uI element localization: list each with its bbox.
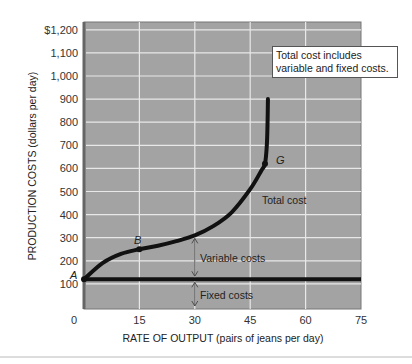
fixed-costs-label: Fixed costs bbox=[200, 289, 253, 301]
point-marker bbox=[81, 276, 87, 282]
y-tick-label: 600 bbox=[60, 162, 78, 174]
total-cost-label: Total cost bbox=[262, 194, 306, 206]
annotation-line-1: Total cost includes bbox=[276, 49, 394, 62]
x-tick-label: 0 bbox=[71, 314, 77, 326]
divider bbox=[0, 356, 412, 358]
y-tick-label: 800 bbox=[60, 116, 78, 128]
x-tick-label: 75 bbox=[355, 314, 367, 326]
x-axis-ticks: 01530456075 bbox=[71, 314, 367, 326]
y-axis-ticks: 1002003004005006007008009001,0001,100$1,… bbox=[44, 24, 78, 290]
point-marker bbox=[136, 246, 142, 252]
point-a-label: A bbox=[69, 269, 77, 281]
point-b-label: B bbox=[134, 234, 141, 246]
y-tick-label: 1,000 bbox=[50, 70, 78, 82]
y-tick-label: 500 bbox=[60, 186, 78, 198]
point-g-label: G bbox=[276, 154, 285, 166]
x-tick-label: 30 bbox=[189, 314, 201, 326]
x-tick-label: 60 bbox=[299, 314, 311, 326]
x-axis-label: RATE OF OUTPUT (pairs of jeans per day) bbox=[123, 332, 324, 344]
x-tick-label: 45 bbox=[244, 314, 256, 326]
variable-costs-label: Variable costs bbox=[200, 252, 265, 264]
y-tick-label: $1,200 bbox=[44, 24, 78, 36]
y-tick-label: 400 bbox=[60, 209, 78, 221]
x-tick-label: 15 bbox=[133, 314, 145, 326]
y-tick-label: 900 bbox=[60, 93, 78, 105]
y-tick-label: 300 bbox=[60, 232, 78, 244]
y-tick-label: 200 bbox=[60, 255, 78, 267]
annotation-box: Total cost includes variable and fixed c… bbox=[272, 46, 398, 78]
annotation-line-2: variable and fixed costs. bbox=[276, 62, 394, 75]
point-marker bbox=[262, 161, 268, 167]
y-axis-label: PRODUCTION COSTS (dollars per day) bbox=[26, 72, 38, 260]
y-tick-label: 700 bbox=[60, 139, 78, 151]
y-tick-label: 1,100 bbox=[50, 47, 78, 59]
